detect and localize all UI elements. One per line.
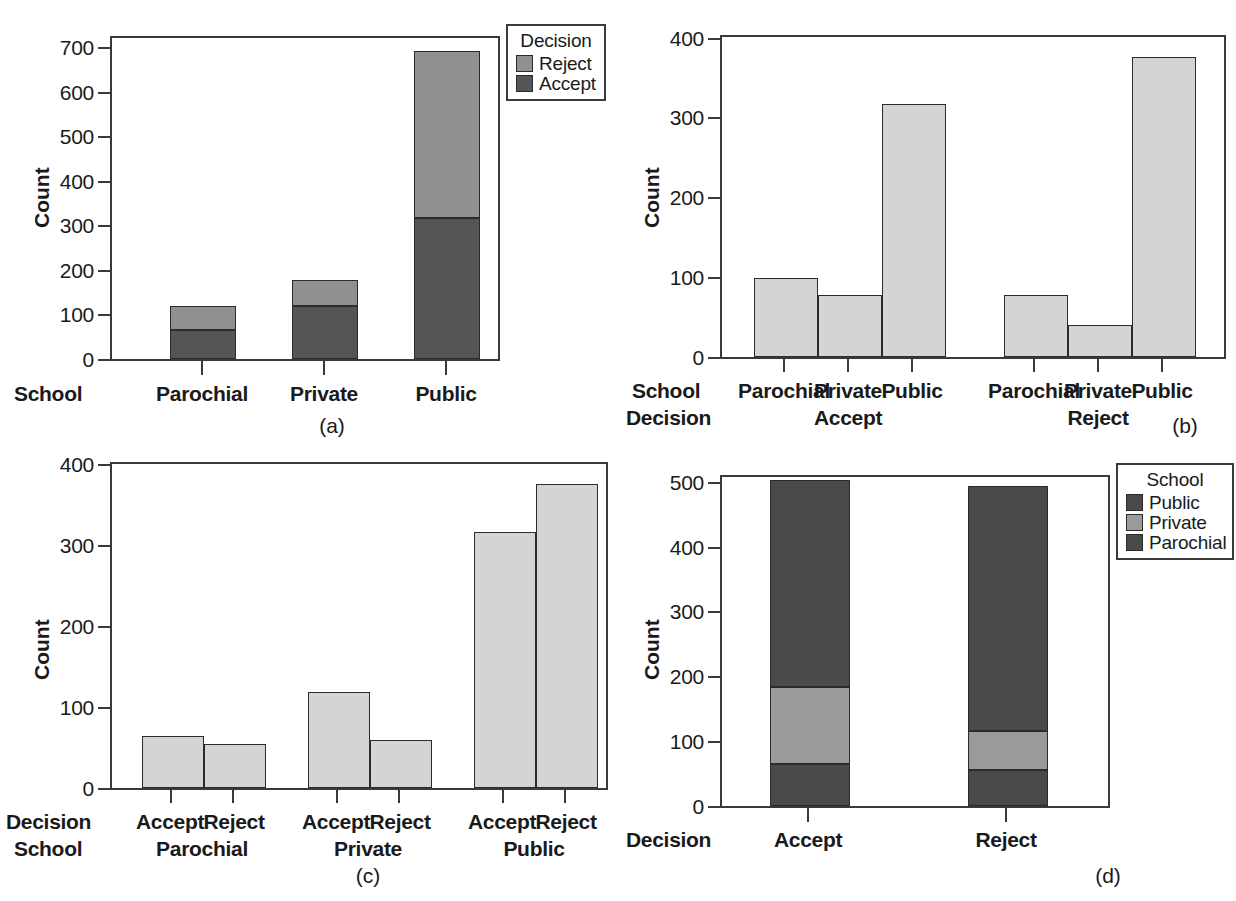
panel-b-xtick-mark	[783, 359, 785, 372]
panel-b-xtick-mark	[1097, 359, 1099, 372]
panel-d-legend-row-parochial[interactable]: Parochial	[1126, 533, 1224, 552]
panel-d-legend-row-public[interactable]: Public	[1126, 493, 1224, 512]
panel-c-xtick-mark	[170, 790, 172, 803]
panel-b-xcat-accept-public: Public	[881, 379, 942, 403]
panel-d-bar-reject[interactable]	[968, 486, 1048, 806]
panel-d-xtick-mark	[807, 808, 809, 822]
panel-a-ytick-label: 0	[32, 348, 94, 372]
panel-c-xcat-private-reject: Reject	[369, 810, 430, 834]
panel-d-legend-row-private[interactable]: Private	[1126, 513, 1224, 532]
panel-c-x-axis-variable-label-row2: School	[14, 837, 82, 861]
panel-d-ytick-label: 0	[642, 795, 704, 819]
panel-a-segment-accept	[292, 306, 358, 359]
panel-b-xtick-mark	[847, 359, 849, 372]
panel-a-xtick-mark	[201, 361, 203, 375]
panel-a-legend-row-reject[interactable]: Reject	[516, 54, 596, 73]
panel-c-ytick-label: 400	[32, 453, 94, 477]
panel-a: Count 700 600 500 400 300 200 100 0 S	[0, 0, 618, 450]
panel-a-segment-reject	[414, 51, 480, 218]
panel-b-ytick-label: 200	[642, 186, 704, 210]
panel-a-bar-parochial[interactable]	[170, 306, 236, 359]
panel-a-ytick-label: 500	[32, 125, 94, 149]
panel-d-bar-accept[interactable]	[770, 480, 850, 806]
panel-b-plot-frame	[720, 35, 1226, 359]
panel-b-ytick-label: 100	[642, 266, 704, 290]
panel-c-xcat-private-accept: Accept	[302, 810, 370, 834]
panel-b-bar-reject-public[interactable]	[1132, 57, 1196, 357]
panel-a-bar-private[interactable]	[292, 280, 358, 359]
panel-a-xtick-mark	[445, 361, 447, 375]
panel-d-legend-title: School	[1126, 469, 1224, 491]
panel-a-segment-reject	[170, 306, 236, 330]
panel-c-xtick-mark	[232, 790, 234, 803]
panel-c-ytick-label: 300	[32, 534, 94, 558]
panel-d-legend[interactable]: School Public Private Parochial	[1116, 463, 1234, 560]
panel-a-segment-accept	[170, 330, 236, 359]
panel-d-segment-parochial	[968, 770, 1048, 806]
panel-a-ytick-label: 200	[32, 259, 94, 283]
panel-a-legend-row-accept[interactable]: Accept	[516, 74, 596, 93]
panel-b-x-axis-variable-label-row2: Decision	[626, 406, 711, 430]
panel-b-bar-accept-private[interactable]	[818, 295, 882, 357]
panel-c-bar-parochial-reject[interactable]	[204, 744, 266, 788]
panel-c-xtick-mark	[564, 790, 566, 803]
legend-swatch-accept-icon	[516, 75, 533, 92]
panel-d-segment-public	[770, 480, 850, 687]
panel-c-xgroup-public: Public	[503, 837, 564, 861]
panel-b-bar-reject-private[interactable]	[1068, 325, 1132, 357]
panel-d-ytick-label: 200	[642, 665, 704, 689]
panel-d-xcat-reject: Reject	[975, 828, 1036, 852]
panel-d-segment-private	[770, 687, 850, 764]
panel-b-bar-reject-parochial[interactable]	[1004, 295, 1068, 357]
panel-d-legend-label: Private	[1149, 513, 1207, 532]
panel-b-xcat-accept-private: Private	[814, 379, 882, 403]
panel-b-xcat-reject-private: Private	[1064, 379, 1132, 403]
panel-a-x-axis-variable-label: School	[14, 382, 82, 406]
panel-a-plot-frame	[110, 36, 500, 361]
panel-a-bar-public[interactable]	[414, 51, 480, 359]
panel-c-xcat-parochial-accept: Accept	[136, 810, 204, 834]
panel-a-xcat-private: Private	[290, 382, 358, 406]
panel-c-xcat-public-accept: Accept	[468, 810, 536, 834]
panel-a-legend-label: Accept	[539, 74, 596, 93]
panel-c-bar-public-reject[interactable]	[536, 484, 598, 788]
panel-c-plot-frame	[110, 462, 608, 790]
panel-c-xgroup-private: Private	[334, 837, 402, 861]
panel-c-xtick-mark	[336, 790, 338, 803]
panel-c-xgroup-parochial: Parochial	[156, 837, 248, 861]
panel-a-legend[interactable]: Decision Reject Accept	[506, 24, 606, 101]
panel-b-xtick-mark	[1161, 359, 1163, 372]
panel-a-ytick-label: 100	[32, 303, 94, 327]
panel-a-ytick-label: 600	[32, 81, 94, 105]
panel-c-xtick-mark	[502, 790, 504, 803]
panel-a-xcat-parochial: Parochial	[156, 382, 248, 406]
panel-a-ytick-label: 300	[32, 214, 94, 238]
panel-d-segment-parochial	[770, 764, 850, 806]
legend-swatch-public-icon	[1126, 494, 1143, 511]
panel-a-xcat-public: Public	[415, 382, 476, 406]
panel-a-segment-reject	[292, 280, 358, 306]
panel-b-xtick-mark	[911, 359, 913, 372]
panel-d-ytick-label: 300	[642, 600, 704, 624]
panel-b: Count 400 300 200 100 0 School Decision …	[618, 0, 1236, 450]
panel-b-bar-accept-public[interactable]	[882, 104, 946, 357]
panel-b-ytick-label: 0	[642, 346, 704, 370]
panel-c-ytick-label: 200	[32, 615, 94, 639]
panel-d-xtick-mark	[1005, 808, 1007, 822]
panel-c-bar-private-accept[interactable]	[308, 692, 370, 788]
panel-c-bar-parochial-accept[interactable]	[142, 736, 204, 788]
panel-b-xgroup-accept: Accept	[814, 406, 882, 430]
panel-a-legend-label: Reject	[539, 54, 592, 73]
panel-c-xtick-mark	[398, 790, 400, 803]
panel-d-plot-frame	[720, 475, 1110, 808]
panel-c-bar-public-accept[interactable]	[474, 532, 536, 788]
panel-b-bar-accept-parochial[interactable]	[754, 278, 818, 357]
panel-d-legend-label: Parochial	[1149, 533, 1226, 552]
panel-c-ytick-label: 100	[32, 696, 94, 720]
panel-c-xcat-parochial-reject: Reject	[203, 810, 264, 834]
panel-c-xcat-public-reject: Reject	[535, 810, 596, 834]
panel-b-xtick-mark	[1033, 359, 1035, 372]
legend-swatch-parochial-icon	[1126, 534, 1143, 551]
panel-c-bar-private-reject[interactable]	[370, 740, 432, 788]
panel-d-caption: (d)	[1095, 864, 1121, 888]
